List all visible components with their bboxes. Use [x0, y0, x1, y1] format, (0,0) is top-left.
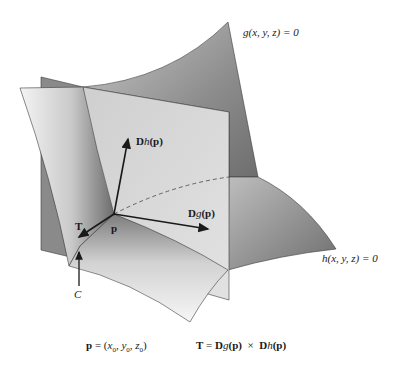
caption-point-definition: p = (x0, y0, z0) — [86, 340, 147, 354]
diagram-canvas — [0, 0, 402, 366]
h-surface-label: h(x, y, z) = 0 — [322, 253, 378, 264]
caption-T-eq: = — [203, 339, 215, 351]
C-label: C — [74, 289, 81, 300]
caption-tangent-definition: T = Dg(p) × Dh(p) — [196, 340, 286, 351]
h-args: (x, y, z) = 0 — [328, 252, 378, 264]
Dh-D: D — [136, 135, 144, 147]
caption-p1: (p) — [229, 339, 242, 351]
caption-times: × — [242, 339, 259, 351]
Dg-p: (p) — [201, 207, 214, 219]
Dg-label: Dg(p) — [188, 208, 215, 219]
h-surface-right — [228, 177, 336, 270]
point-p — [113, 213, 116, 216]
caption-eq: = ( — [92, 339, 107, 351]
Dh-p: (p) — [149, 135, 162, 147]
Dg-D: D — [188, 207, 196, 219]
p-label: p — [111, 223, 117, 234]
T-label: T — [75, 221, 82, 232]
g-args: (x, y, z) = 0 — [249, 26, 299, 38]
g-surface-label: g(x, y, z) = 0 — [243, 27, 299, 38]
caption-D1: D — [215, 339, 223, 351]
Dh-label: Dh(p) — [136, 136, 163, 147]
caption-D2: D — [259, 339, 267, 351]
caption-p2: (p) — [273, 339, 286, 351]
